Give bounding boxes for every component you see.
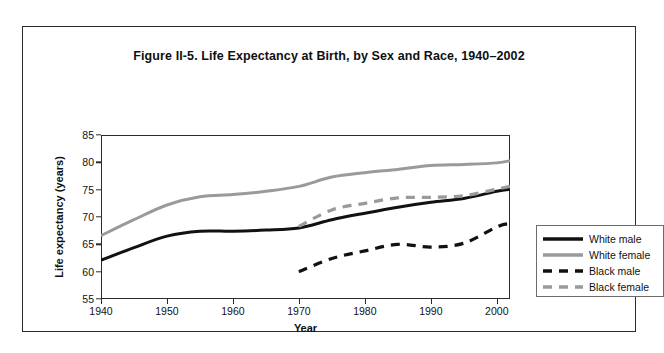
legend-item[interactable]: Black female [542, 279, 657, 295]
x-axis-tick-mark [497, 299, 498, 304]
y-axis-tick-label: 70 [82, 211, 94, 223]
plot-wrapper: 55606570758085 1940195019601970198019902… [101, 135, 510, 299]
y-axis-title: Life expectancy (years) [53, 135, 69, 299]
legend-label: White female [589, 249, 650, 261]
legend-swatch-icon [542, 231, 584, 247]
y-axis-tick-label: 85 [82, 129, 94, 141]
legend-label: White male [589, 233, 642, 245]
x-axis-tick-label: 1990 [419, 305, 442, 317]
x-axis-tick-label: 1950 [155, 305, 178, 317]
legend-swatch-icon [542, 263, 584, 279]
y-axis-tick-mark [96, 162, 101, 163]
x-axis-tick-label: 1970 [287, 305, 310, 317]
page-title: Figure II-5. Life Expectancy at Birth, b… [23, 49, 635, 63]
x-axis-tick-mark [101, 299, 102, 304]
x-axis-tick-mark [365, 299, 366, 304]
x-axis-tick-mark [233, 299, 234, 304]
legend-label: Black female [589, 281, 649, 293]
x-axis-tick-mark [299, 299, 300, 304]
y-axis-tick-label: 65 [82, 238, 94, 250]
legend-item[interactable]: White female [542, 247, 657, 263]
x-axis-tick-mark [167, 299, 168, 304]
x-axis-tick-label: 1980 [353, 305, 376, 317]
y-axis-tick-label: 80 [82, 156, 94, 168]
y-axis-tick-mark [96, 189, 101, 190]
x-axis-tick-label: 2000 [485, 305, 508, 317]
x-axis-title: Year [101, 322, 510, 334]
legend-swatch-icon [542, 279, 584, 295]
chart-lines [101, 135, 510, 299]
x-axis-tick-label: 1960 [221, 305, 244, 317]
y-axis-tick-mark [96, 134, 101, 135]
y-axis-tick-mark [96, 216, 101, 217]
y-axis-tick-label: 75 [82, 184, 94, 196]
series-line-white-male [101, 189, 510, 260]
y-axis-tick-mark [96, 271, 101, 272]
y-axis-tick-label: 60 [82, 266, 94, 278]
x-axis-tick-label: 1940 [89, 305, 112, 317]
legend-label: Black male [589, 265, 640, 277]
series-line-black-male [299, 224, 510, 272]
legend-swatch-icon [542, 247, 584, 263]
legend-item[interactable]: White male [542, 231, 657, 247]
y-axis-tick-mark [96, 244, 101, 245]
x-axis-tick-mark [431, 299, 432, 304]
figure-frame: Figure II-5. Life Expectancy at Birth, b… [22, 26, 636, 332]
legend-item[interactable]: Black male [542, 263, 657, 279]
chart-legend: White maleWhite femaleBlack maleBlack fe… [536, 225, 664, 297]
y-axis-tick-label: 55 [82, 293, 94, 305]
